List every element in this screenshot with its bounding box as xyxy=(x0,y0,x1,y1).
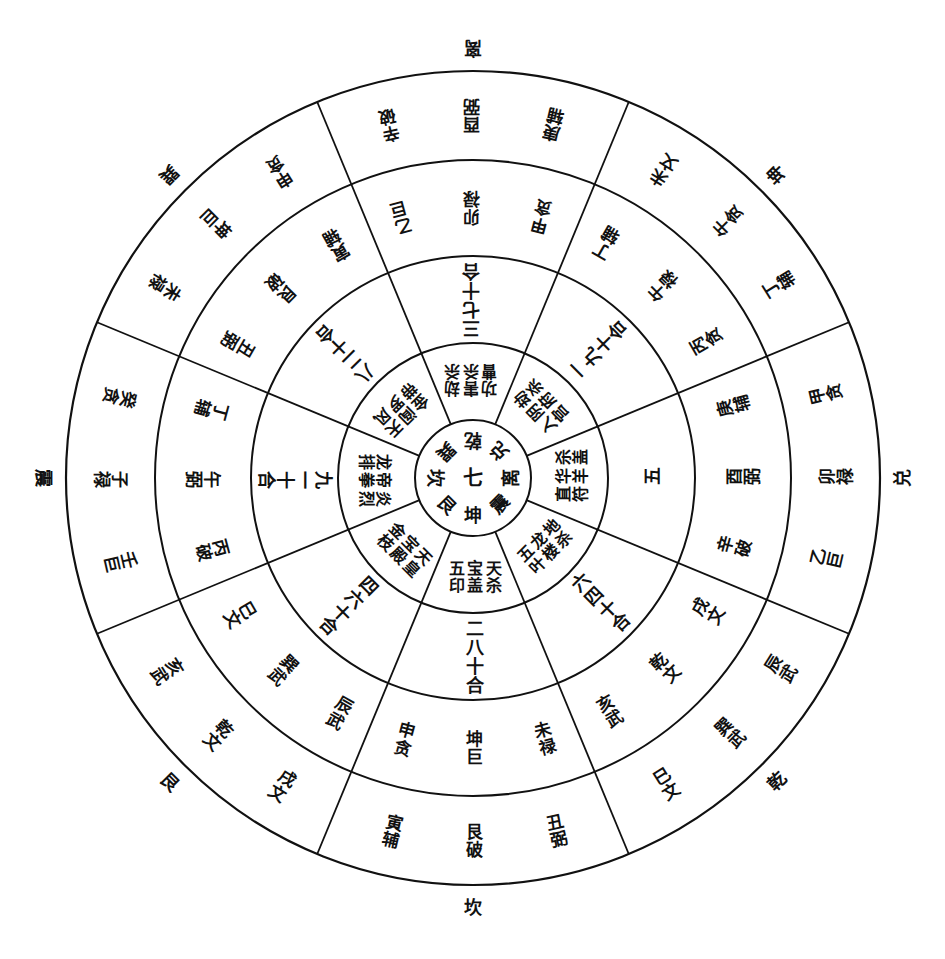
bagua-wheel-diagram: 七坤艮坎巽乾兑离震坎乾兑坤离巽震艮天杀宝盖五印二八十合未禄坤巨申贪丑弼艮破寅辅地… xyxy=(0,0,945,959)
